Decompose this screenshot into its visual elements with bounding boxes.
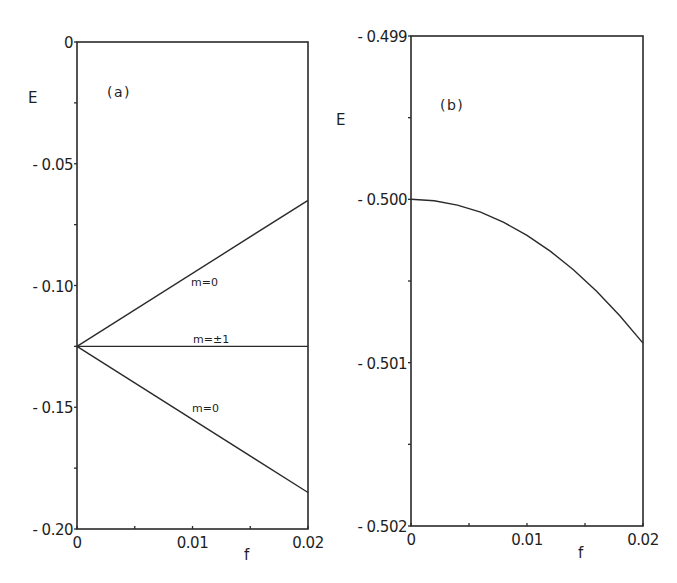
panel-a-y-axis-label: E	[28, 89, 37, 107]
panel-b-x-tick-labels: 00.010.02	[406, 531, 658, 549]
series-line-1	[77, 200, 308, 346]
x-tick-label: 0.01	[177, 534, 208, 552]
panel-a-x-axis-label: f	[244, 546, 250, 564]
y-tick-label: - 0.501	[357, 355, 407, 373]
panel-b-x-axis-label: f	[578, 544, 584, 562]
panel-a-curve-label-middle: m=±1	[193, 333, 229, 346]
x-tick-label: 0.02	[292, 534, 323, 552]
y-tick-label: - 0.20	[32, 521, 73, 539]
panel-a-label: (a)	[107, 84, 131, 100]
panel-a-series	[77, 200, 308, 492]
y-tick-label: - 0.499	[357, 28, 407, 46]
panel-a-y-tick-labels: 0- 0.05- 0.10- 0.15- 0.20	[32, 34, 73, 539]
x-tick-label: 0	[72, 534, 81, 552]
panel-b-series	[411, 199, 643, 343]
x-tick-label: 0.01	[511, 531, 542, 549]
panel-b-y-axis-label: E	[336, 111, 345, 129]
panel-b: - 0.499- 0.500- 0.501- 0.502 00.010.02 E…	[336, 28, 659, 562]
series-line-3	[77, 346, 308, 492]
figure: 0- 0.05- 0.10- 0.15- 0.20 00.010.02 E f …	[0, 0, 677, 583]
x-tick-label: 0	[406, 531, 415, 549]
panel-a-x-tick-labels: 00.010.02	[72, 534, 323, 552]
y-tick-label: - 0.10	[32, 278, 73, 296]
panel-b-y-tick-labels: - 0.499- 0.500- 0.501- 0.502	[357, 28, 407, 536]
series-line-1	[411, 199, 643, 343]
panel-a: 0- 0.05- 0.10- 0.15- 0.20 00.010.02 E f …	[28, 34, 324, 564]
panel-a-curve-label-lower: m=0	[192, 402, 219, 415]
panel-a-curve-label-upper: m=0	[191, 276, 218, 289]
y-tick-label: - 0.05	[32, 156, 73, 174]
y-tick-label: - 0.500	[357, 191, 407, 209]
x-tick-label: 0.02	[627, 531, 658, 549]
panel-b-label: (b)	[440, 97, 464, 113]
y-tick-label: - 0.15	[32, 399, 73, 417]
y-tick-label: 0	[64, 34, 73, 52]
y-tick-label: - 0.502	[357, 518, 407, 536]
